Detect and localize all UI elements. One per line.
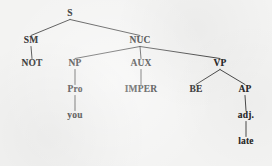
tree-node-imper: IMPER [125,85,158,95]
tree-node-pro: Pro [67,85,82,95]
tree-node-ap: AP [238,85,251,95]
tree-node-adj: adj. [238,111,254,121]
tree-node-sm: SM [24,36,39,46]
tree-node-np: NP [68,59,81,69]
tree-node-vp: VP [213,59,226,69]
tree-node-layer: SSMNUCNOTNPAUXVPProIMPERBEAPyouadj.late [0,0,272,166]
tree-node-late: late [238,137,254,147]
tree-node-be: BE [189,85,202,95]
tree-node-nuc: NUC [129,36,150,46]
tree-node-you: you [67,111,82,121]
tree-node-aux: AUX [130,59,151,69]
tree-node-not: NOT [21,59,42,69]
tree-node-s: S [67,9,72,19]
